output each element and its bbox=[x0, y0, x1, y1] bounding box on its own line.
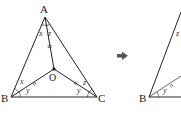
angle-label-a-right-z: z bbox=[175, 29, 180, 38]
point-label-o: O bbox=[49, 72, 56, 83]
angle-label-c-z: z bbox=[82, 78, 87, 87]
angle-label-c-y: y bbox=[76, 86, 81, 95]
vertex-label-b-right: B bbox=[139, 92, 146, 104]
angle-label-b-x: x bbox=[19, 77, 24, 86]
angle-label-a-z: z bbox=[47, 29, 52, 38]
segment-co bbox=[54, 69, 97, 97]
triangle-partial bbox=[149, 12, 181, 97]
vertex-label-c: C bbox=[98, 92, 105, 104]
angle-label-b-y: y bbox=[25, 86, 30, 95]
point-o bbox=[52, 67, 55, 70]
vertex-label-a: A bbox=[40, 3, 48, 15]
vertex-label-b: B bbox=[1, 92, 8, 104]
diagram-canvas: A B C O x z x y z y B y z bbox=[0, 0, 181, 113]
angle-label-b-right-y: y bbox=[162, 86, 167, 95]
right-arrow-icon bbox=[117, 52, 128, 61]
angle-label-a-x: x bbox=[38, 29, 43, 38]
